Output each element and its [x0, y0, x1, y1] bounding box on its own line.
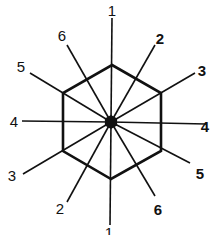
- center-hub: [105, 115, 117, 129]
- spoke-label: 5: [17, 59, 25, 74]
- spoke-line: [67, 45, 111, 122]
- spoke-label: 3: [198, 63, 206, 78]
- spoke-label: 4: [10, 114, 18, 129]
- spoke-label: 1: [108, 3, 116, 18]
- spoke-label: 5: [196, 166, 204, 181]
- spoke-line: [111, 73, 195, 122]
- spoke-line: [23, 122, 111, 174]
- spoke-label: 2: [56, 201, 64, 216]
- spoke-label: 2: [156, 31, 164, 46]
- spoke-label: 1: [105, 225, 113, 236]
- spoke-label: 3: [8, 168, 16, 183]
- diagram-graphic: [0, 0, 212, 235]
- spoke-line: [111, 45, 155, 122]
- spoke-label: 6: [58, 28, 66, 43]
- spoke-line: [67, 122, 111, 202]
- hexagon-spoke-diagram: 123456123456: [0, 0, 212, 235]
- spoke-label: 6: [154, 202, 162, 217]
- spoke-line: [30, 73, 111, 122]
- spoke-line: [111, 122, 206, 124]
- spoke-line: [110, 122, 111, 225]
- spoke-line: [22, 121, 111, 122]
- spoke-line: [111, 18, 112, 122]
- spoke-label: 4: [201, 119, 209, 134]
